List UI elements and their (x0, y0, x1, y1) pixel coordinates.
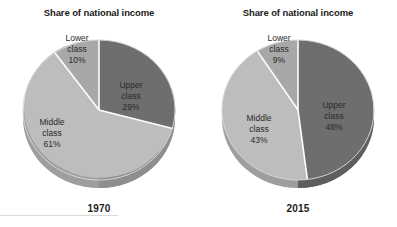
pie-chart-2015: Share of national income Upper class (199, 0, 397, 227)
chart-year-label: 2015 (199, 203, 397, 214)
pie-graphic: Upper class 48% Middle class 43% Lower c… (218, 25, 378, 195)
chart-year-label: 1970 (0, 203, 198, 214)
chart-canvas: Share of national income (0, 0, 397, 227)
page-edge-artifact (0, 215, 118, 216)
slice-upper-class (298, 40, 373, 179)
pie-svg (218, 25, 378, 195)
pie-graphic: Upper class 29% Middle class 61% Lower c… (19, 25, 179, 195)
pie-svg (19, 25, 179, 195)
chart-title: Share of national income (0, 7, 198, 18)
chart-title: Share of national income (199, 7, 397, 18)
pie-chart-1970: Share of national income (0, 0, 198, 227)
